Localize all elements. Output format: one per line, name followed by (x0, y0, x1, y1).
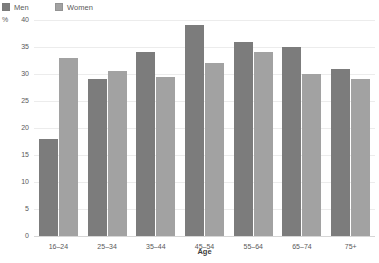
bar-men (136, 52, 155, 236)
bar-women (205, 63, 224, 236)
y-axis-tick-label: 30 (21, 70, 29, 78)
bar-women (351, 79, 370, 236)
y-axis-tick-label: 10 (21, 178, 29, 186)
bar-women (254, 52, 273, 236)
bar-men (234, 42, 253, 236)
bar-men (331, 69, 350, 236)
bar-group: 55–64 (229, 20, 278, 236)
bar-group: 65–74 (278, 20, 327, 236)
y-axis-unit-label: % (2, 16, 8, 24)
y-axis-tick-label: 0 (25, 232, 29, 240)
bar-women (59, 58, 78, 236)
bar-group: 35–44 (131, 20, 180, 236)
y-axis-tick-label: 40 (21, 16, 29, 24)
bar-group: 25–34 (83, 20, 132, 236)
bar-group: 16–24 (34, 20, 83, 236)
legend-swatch-icon (55, 3, 63, 11)
plot-area: 4035302520151050 16–2425–3435–4445–5455–… (34, 20, 375, 236)
y-axis-tick-label: 15 (21, 151, 29, 159)
bar-women (108, 71, 127, 236)
legend-item-women: Women (55, 3, 93, 12)
bar-group: 45–54 (180, 20, 229, 236)
legend-item-men: Men (2, 3, 29, 12)
bar-men (185, 25, 204, 236)
bar-chart: Men Women % 4035302520151050 16–2425–343… (0, 0, 379, 263)
bar-men (282, 47, 301, 236)
gridline: 0 (34, 236, 375, 237)
bar-group: 75+ (326, 20, 375, 236)
bar-men (88, 79, 107, 236)
x-axis-title: Age (34, 247, 375, 256)
y-axis-tick-label: 5 (25, 205, 29, 213)
bar-women (302, 74, 321, 236)
bar-men (39, 139, 58, 236)
y-axis-tick-label: 20 (21, 124, 29, 132)
legend-label-men: Men (14, 3, 29, 12)
chart-legend: Men Women (2, 1, 93, 13)
y-axis-tick-label: 25 (21, 97, 29, 105)
bar-groups: 16–2425–3435–4445–5455–6465–7475+ (34, 20, 375, 236)
bar-women (156, 77, 175, 236)
legend-label-women: Women (67, 3, 93, 12)
legend-swatch-icon (2, 3, 10, 11)
y-axis-tick-label: 35 (21, 43, 29, 51)
